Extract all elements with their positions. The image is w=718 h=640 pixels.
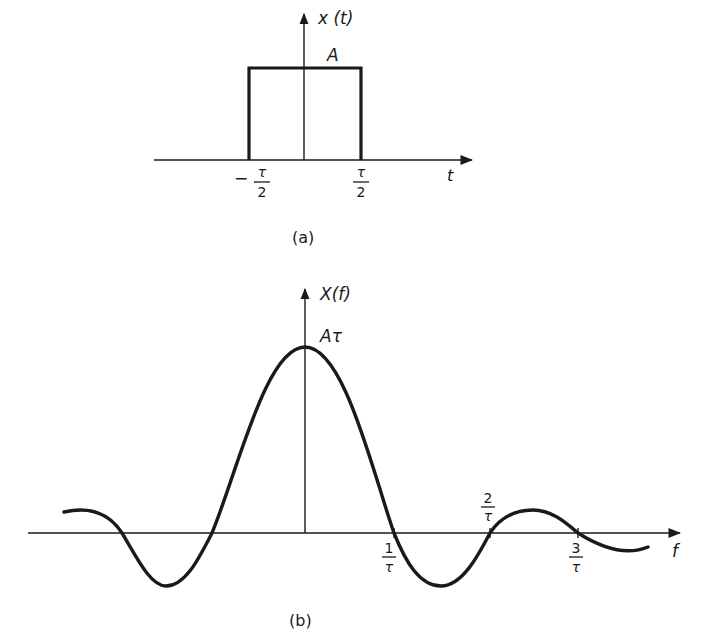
xt-axis-label: x (t) <box>317 8 353 28</box>
amplitude-label: A <box>326 45 339 65</box>
tick-label-2-over-tau: 2 τ <box>481 490 495 524</box>
numerator: 3 <box>572 540 581 556</box>
denominator: 2 <box>258 184 267 200</box>
tick-label-1-over-tau: 1 τ <box>382 540 396 575</box>
numerator: 2 <box>484 490 493 506</box>
f-axis-label: f <box>672 541 681 561</box>
numerator: τ <box>258 164 267 180</box>
minus-sign: − <box>234 168 248 188</box>
numerator: τ <box>357 164 366 180</box>
plot-b: X(f) Aτ f 1 τ 2 τ 3 τ (b) <box>28 284 681 630</box>
Xf-axis-label: X(f) <box>319 284 351 304</box>
caption-b: (b) <box>289 611 312 630</box>
plot-a: x (t) A t − τ 2 τ 2 (a) <box>154 8 472 247</box>
figure: x (t) A t − τ 2 τ 2 (a) X(f) Aτ f 1 <box>0 0 718 640</box>
rect-pulse <box>249 68 361 160</box>
tick-label-3-over-tau: 3 τ <box>569 540 583 575</box>
denominator: τ <box>484 508 493 524</box>
denominator: τ <box>572 559 581 575</box>
denominator: 2 <box>357 184 366 200</box>
caption-a: (a) <box>292 228 314 247</box>
numerator: 1 <box>385 540 394 556</box>
tick-label-tau-half: τ 2 <box>353 164 369 200</box>
peak-label: Aτ <box>319 326 343 346</box>
denominator: τ <box>385 559 394 575</box>
tick-label-neg-tau-half: − τ 2 <box>234 164 270 200</box>
t-axis-label: t <box>447 166 454 185</box>
sinc-curve <box>64 347 648 586</box>
